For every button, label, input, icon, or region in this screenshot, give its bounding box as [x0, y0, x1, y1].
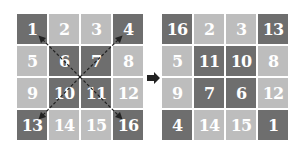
grid-cell: 4: [162, 110, 192, 140]
grid-cell: 12: [258, 78, 288, 108]
grid-cell: 11: [194, 46, 224, 76]
grid-cell: 2: [194, 14, 224, 44]
grid-cell: 16: [162, 14, 192, 44]
grid-cell: 1: [258, 110, 288, 140]
swap-diagonal-arrows: [17, 14, 144, 141]
grid-cell: 13: [258, 14, 288, 44]
magic-square-result: 16231351110897612414151: [162, 14, 289, 141]
grid-cell: 9: [162, 78, 192, 108]
grid-cell: 15: [226, 110, 256, 140]
grid-cell: 6: [226, 78, 256, 108]
grid-cell: 5: [162, 46, 192, 76]
grid-cell: 10: [226, 46, 256, 76]
right-arrow-icon: [147, 72, 161, 84]
grid-cell: 8: [258, 46, 288, 76]
grid-cell: 7: [194, 78, 224, 108]
grid-cell: 3: [226, 14, 256, 44]
grid-cell: 14: [194, 110, 224, 140]
